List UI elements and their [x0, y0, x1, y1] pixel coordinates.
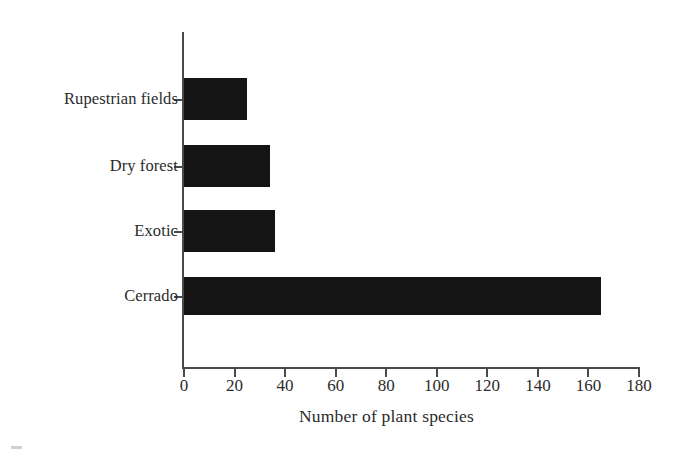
x-tick-label-0: 0	[180, 377, 189, 394]
x-axis-title: Number of plant species	[0, 408, 675, 426]
bar-dry-forest	[184, 145, 270, 187]
x-tick-label-20: 20	[226, 377, 243, 394]
x-tick-label-140: 140	[525, 377, 551, 394]
scan-artifact	[11, 446, 22, 449]
x-tick-label-60: 60	[327, 377, 344, 394]
bar-cerrado	[184, 277, 601, 315]
bar-chart: Rupestrian fields Dry forest Exotic Cerr…	[0, 0, 675, 452]
y-axis-label-exotic: Exotic	[134, 223, 178, 240]
x-tick-label-180: 180	[626, 377, 652, 394]
x-axis-title-text: Number of plant species	[299, 406, 474, 426]
plot-area	[184, 32, 639, 368]
y-axis-label-cerrado: Cerrado	[124, 288, 178, 305]
x-tick-label-80: 80	[378, 377, 395, 394]
x-tick-label-100: 100	[424, 377, 450, 394]
bar-exotic	[184, 210, 275, 252]
x-tick-label-120: 120	[475, 377, 501, 394]
x-tick-label-40: 40	[277, 377, 294, 394]
y-axis-label-rupestrian-fields: Rupestrian fields	[64, 91, 178, 108]
x-tick-label-160: 160	[576, 377, 602, 394]
bar-rupestrian-fields	[184, 78, 247, 120]
y-axis-label-dry-forest: Dry forest	[110, 158, 178, 175]
